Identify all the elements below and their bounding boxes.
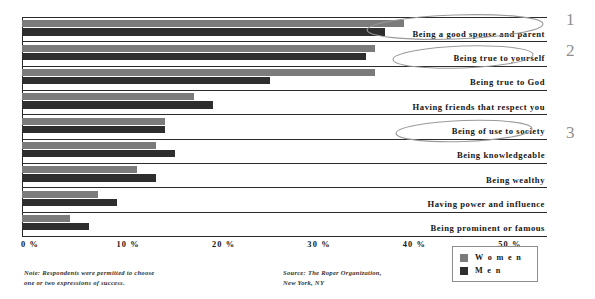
bar-women [22, 20, 404, 27]
chart-row: Being wealthy [22, 163, 547, 187]
chart-row: Being of use to society [22, 114, 547, 138]
category-label: Being prominent or famous [431, 223, 545, 233]
row-separator-line [22, 41, 547, 42]
x-axis-baseline [22, 236, 547, 237]
category-label: Being true to yourself [453, 53, 545, 63]
x-tick-label: 20 % [212, 240, 235, 249]
x-tick-label: 30 % [307, 240, 330, 249]
legend-swatch-men [460, 267, 468, 275]
plot-area: Being a good spouse and parentBeing true… [22, 17, 547, 236]
row-separator-line [22, 114, 547, 115]
category-label: Being true to God [470, 77, 545, 87]
bar-women [22, 45, 375, 52]
bar-women [22, 215, 70, 222]
chart-row: Being true to yourself [22, 41, 547, 65]
chart-container: Being a good spouse and parentBeing true… [0, 0, 595, 299]
legend-label-women: W o m e n [475, 253, 522, 262]
bar-women [22, 142, 156, 149]
category-label: Having power and influence [427, 199, 545, 209]
x-tick-label: 40 % [403, 240, 426, 249]
row-separator-line [22, 90, 547, 91]
legend-swatch-women [460, 254, 468, 262]
bar-men [22, 53, 366, 60]
row-separator-line [22, 163, 547, 164]
annotation-number-1: 1 [566, 10, 575, 30]
bar-men [22, 223, 89, 230]
bar-women [22, 166, 137, 173]
chart-row: Being prominent or famous [22, 212, 547, 236]
row-separator-line [22, 17, 547, 18]
row-separator-line [22, 66, 547, 67]
chart-row: Having power and influence [22, 187, 547, 211]
bar-men [22, 101, 213, 108]
chart-row: Being true to God [22, 66, 547, 90]
x-tick-label: 0 % [21, 240, 39, 249]
footnote-note: Note: Respondents were permitted to choo… [24, 268, 154, 287]
bar-women [22, 118, 165, 125]
annotation-number-3: 3 [566, 123, 575, 143]
category-label: Being a good spouse and parent [412, 29, 545, 39]
bar-women [22, 93, 194, 100]
category-label: Being knowledgeable [457, 150, 545, 160]
row-separator-line [22, 139, 547, 140]
bar-men [22, 199, 117, 206]
category-label: Being of use to society [452, 126, 545, 136]
category-label: Being wealthy [486, 175, 545, 185]
bar-men [22, 28, 385, 35]
chart-row: Being a good spouse and parent [22, 17, 547, 41]
chart-row: Having friends that respect you [22, 90, 547, 114]
bar-men [22, 77, 270, 84]
category-label: Having friends that respect you [413, 102, 545, 112]
bar-men [22, 126, 165, 133]
annotation-number-2: 2 [566, 41, 575, 61]
x-tick-label: 10 % [116, 240, 139, 249]
legend-label-men: M e n [475, 266, 502, 275]
bar-men [22, 174, 156, 181]
row-separator-line [22, 187, 547, 188]
legend-item-women: W o m e n [460, 251, 537, 264]
footnote-source: Source: The Roper Organization, New York… [283, 268, 382, 287]
chart-legend: W o m e n M e n [452, 246, 538, 282]
bar-women [22, 191, 98, 198]
bar-women [22, 69, 375, 76]
legend-item-men: M e n [460, 264, 537, 277]
row-separator-line [22, 212, 547, 213]
chart-row: Being knowledgeable [22, 139, 547, 163]
bar-men [22, 150, 175, 157]
